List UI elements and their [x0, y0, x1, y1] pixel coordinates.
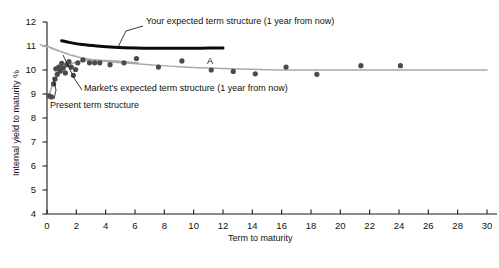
scatter-point — [107, 62, 112, 67]
y-axis-tick-label: 11 — [14, 41, 36, 51]
x-axis-tick-label: 26 — [417, 221, 439, 231]
x-axis-title: Term to maturity — [228, 234, 293, 243]
x-axis-tick-label: 10 — [183, 221, 205, 231]
scatter-point — [134, 56, 139, 61]
scatter-point — [73, 67, 78, 72]
scatter-point — [87, 60, 92, 65]
markets-expected-term-structure: Market's expected term structure (1 year… — [84, 84, 288, 93]
your-expected-term-structure-leader — [118, 26, 143, 47]
x-axis-tick-label: 22 — [359, 221, 381, 231]
scatter-point — [49, 94, 54, 99]
y-axis-title: Internal yield to maturity % — [11, 70, 21, 176]
scatter-point — [179, 58, 184, 63]
scatter-point — [59, 61, 64, 66]
scatter-point — [231, 69, 236, 74]
scatter-point — [75, 60, 80, 65]
x-axis-tick-label: 12 — [212, 221, 234, 231]
x-axis-tick-label: 20 — [329, 221, 351, 231]
point-a-label: A — [207, 57, 213, 66]
scatter-point — [92, 60, 97, 65]
scatter-point — [63, 70, 68, 75]
scatter-point — [398, 63, 403, 68]
axis-layer — [43, 22, 498, 214]
x-axis-tick-label: 28 — [447, 221, 469, 231]
present-term-structure: Present term structure — [50, 101, 139, 110]
series-line — [62, 41, 223, 48]
your-expected-term-structure: Your expected term structure (1 year fro… — [146, 17, 334, 26]
x-axis-tick-label: 0 — [36, 221, 58, 231]
y-axis-tick-label: 12 — [14, 17, 36, 27]
scatter-point — [283, 65, 288, 70]
series-line — [47, 46, 487, 70]
scatter-point — [121, 60, 126, 65]
y-axis-tick-label: 5 — [14, 185, 36, 195]
chart-figure: 456789101112 024681012141618202224262830… — [0, 0, 499, 268]
x-axis-tick-label: 4 — [95, 221, 117, 231]
x-axis-tick-label: 14 — [241, 221, 263, 231]
x-axis-tick-label: 24 — [388, 221, 410, 231]
x-axis-tick-label: 2 — [65, 221, 87, 231]
x-axis-tick-label: 16 — [271, 221, 293, 231]
x-axis-tick-label: 6 — [124, 221, 146, 231]
y-axis-tick-label: 4 — [14, 209, 36, 219]
scatter-point — [209, 67, 214, 72]
scatter-point — [97, 60, 102, 65]
x-axis-tick-label: 8 — [153, 221, 175, 231]
scatter-point — [314, 72, 319, 77]
scatter-point — [358, 63, 363, 68]
scatter-point — [80, 57, 85, 62]
scatter-point — [253, 71, 258, 76]
scatter-point — [156, 65, 161, 70]
x-axis-tick-label: 30 — [476, 221, 498, 231]
x-axis-tick-label: 18 — [300, 221, 322, 231]
